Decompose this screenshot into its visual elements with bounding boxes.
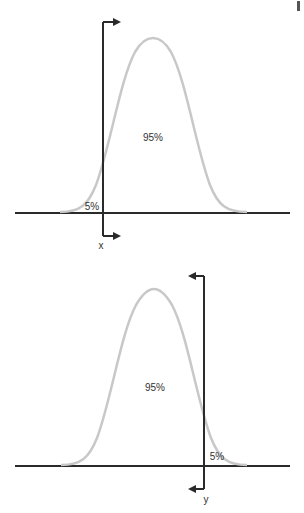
center-area-label: 95% <box>145 382 165 393</box>
cutoff-label: x <box>99 240 104 251</box>
tail-area-label: 5% <box>210 451 225 462</box>
right-tail-diagram: 95% 5% y <box>15 276 290 505</box>
diagram-canvas: 95% 5% x 95% 5% y <box>0 0 304 513</box>
center-area-label: 95% <box>143 132 163 143</box>
left-tail-diagram: 95% 5% x <box>15 22 290 251</box>
corner-mark <box>297 1 300 11</box>
tail-area-label: 5% <box>85 201 100 212</box>
normal-curve <box>61 289 247 465</box>
cutoff-label: y <box>204 494 209 505</box>
normal-curve <box>60 38 247 212</box>
